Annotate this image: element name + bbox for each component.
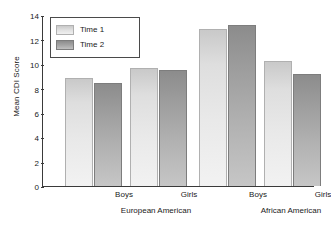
y-tick-4: 4 — [35, 129, 43, 147]
x-group-label-0: European American — [121, 206, 191, 215]
y-tick-6: 6 — [35, 105, 43, 123]
y-tick-mark — [41, 187, 44, 188]
x-sub-label-3: Girls — [315, 190, 331, 199]
y-tick-mark — [41, 114, 44, 115]
y-tick-12: 12 — [30, 31, 43, 49]
x-group-label-1: African American — [261, 206, 321, 215]
x-sub-label-0: Boys — [115, 190, 133, 199]
y-tick-mark — [41, 163, 44, 164]
y-tick-mark — [41, 65, 44, 66]
bar-ea-girls-time2 — [159, 70, 187, 186]
y-tick-mark — [41, 40, 44, 41]
bar-aa-boys-time2 — [228, 25, 256, 186]
x-sub-label-1: Girls — [181, 190, 197, 199]
bar-ea-boys-time2 — [94, 83, 122, 186]
legend-item-time2: Time 2 — [56, 37, 134, 52]
bar-aa-boys-time1 — [199, 29, 227, 186]
y-tick-mark — [41, 89, 44, 90]
legend-label-time1: Time 1 — [80, 25, 104, 34]
y-tick-mark — [41, 16, 44, 17]
bar-aa-girls-time1 — [264, 61, 292, 186]
y-tick-2: 2 — [35, 154, 43, 172]
y-tick-14: 14 — [30, 7, 43, 25]
x-sub-label-2: Boys — [249, 190, 267, 199]
legend-label-time2: Time 2 — [80, 40, 104, 49]
y-tick-mark — [41, 138, 44, 139]
bar-ea-girls-time1 — [130, 68, 158, 186]
y-axis-title: Mean CDI Score — [12, 27, 21, 147]
legend-swatch-time1-icon — [56, 25, 74, 35]
y-tick-0: 0 — [35, 178, 43, 196]
y-tick-10: 10 — [30, 56, 43, 74]
bar-ea-boys-time1 — [65, 78, 93, 186]
legend-item-time1: Time 1 — [56, 22, 134, 37]
chart-legend: Time 1 Time 2 — [50, 17, 140, 58]
legend-swatch-time2-icon — [56, 40, 74, 50]
y-tick-8: 8 — [35, 80, 43, 98]
bar-aa-girls-time2 — [293, 74, 321, 186]
